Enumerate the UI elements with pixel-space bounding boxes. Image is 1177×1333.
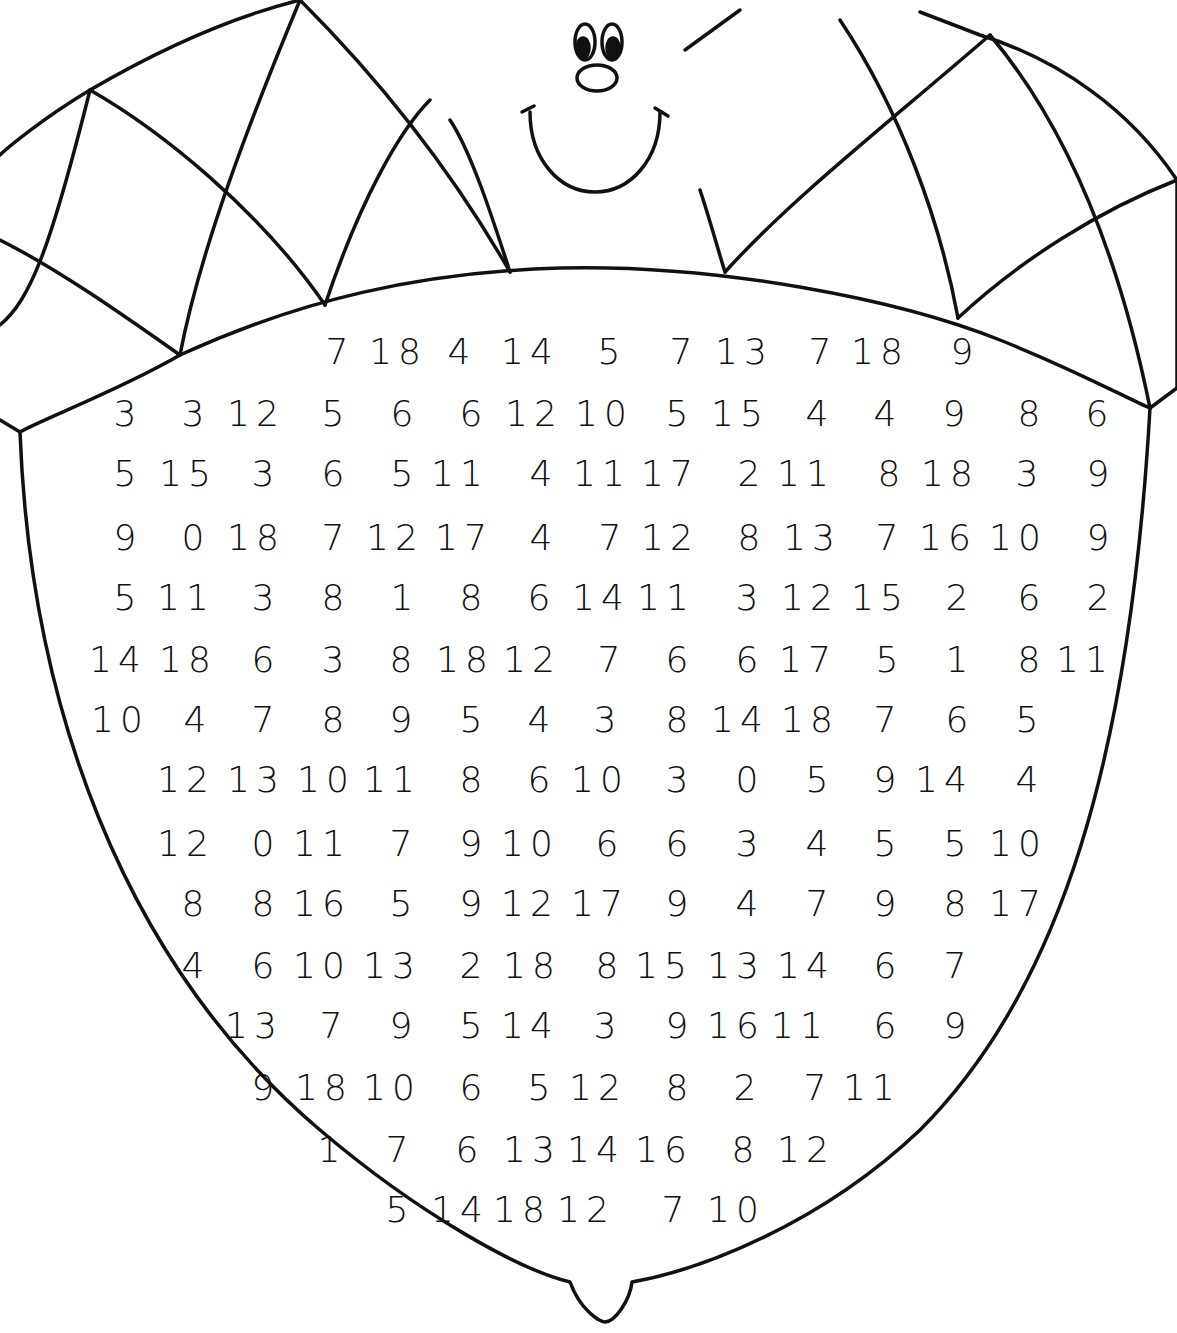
number-cell: 5 — [806, 762, 835, 798]
number-cell: 7 — [874, 702, 903, 738]
number-cell: 5 — [386, 1192, 415, 1228]
number-cell: 9 — [1087, 520, 1116, 556]
number-cell: 4 — [806, 826, 835, 862]
number-cell: 13 — [225, 1008, 283, 1044]
number-cell: 3 — [322, 642, 351, 678]
number-cell: 6 — [460, 396, 489, 432]
number-cell: 6 — [391, 396, 420, 432]
number-cell: 9 — [1087, 456, 1116, 492]
number-cell: 9 — [390, 702, 419, 738]
number-cell: 5 — [666, 396, 695, 432]
number-cell: 15 — [711, 396, 769, 432]
number-cell: 17 — [435, 520, 493, 556]
number-cell: 8 — [944, 886, 973, 922]
number-cell: 14 — [567, 1132, 625, 1168]
number-cell: 1 — [318, 1132, 347, 1168]
number-cell: 18 — [227, 520, 285, 556]
number-cell: 2 — [1087, 580, 1116, 616]
number-cell: 12 — [503, 642, 561, 678]
number-cell: 9 — [943, 396, 972, 432]
number-cell: 9 — [944, 1008, 973, 1044]
number-cell: 6 — [252, 948, 281, 984]
number-cell: 16 — [293, 886, 351, 922]
number-cell: 10 — [501, 826, 559, 862]
number-cell: 18 — [921, 456, 979, 492]
number-cell: 8 — [182, 886, 211, 922]
number-cell: 14 — [915, 762, 973, 798]
number-cell: 3 — [252, 456, 281, 492]
number-cell: 17 — [779, 642, 837, 678]
number-cell: 4 — [806, 396, 835, 432]
number-cell: 15 — [851, 580, 909, 616]
number-cell: 5 — [391, 456, 420, 492]
number-cell: 10 — [707, 1192, 765, 1228]
number-cell: 13 — [783, 520, 841, 556]
number-cell: 7 — [252, 702, 281, 738]
number-cell: 4 — [184, 702, 213, 738]
number-cell: 7 — [598, 642, 627, 678]
number-cell: 7 — [670, 334, 699, 370]
number-cell: 6 — [460, 1070, 489, 1106]
number-cell: 12 — [641, 520, 699, 556]
number-cell: 8 — [878, 456, 907, 492]
number-cell: 11 — [637, 580, 695, 616]
number-cell: 4 — [448, 334, 477, 370]
number-cell: 14 — [777, 948, 835, 984]
number-cell: 8 — [1018, 396, 1047, 432]
number-cell: 13 — [503, 1132, 561, 1168]
number-cell: 0 — [252, 826, 281, 862]
number-cell: 10 — [297, 762, 355, 798]
number-cell: 18 — [503, 948, 561, 984]
number-cell: 7 — [326, 334, 355, 370]
number-cell: 13 — [227, 762, 285, 798]
number-cell: 3 — [666, 762, 695, 798]
number-cell: 6 — [528, 762, 557, 798]
number-cell: 6 — [322, 456, 351, 492]
number-cell: 4 — [182, 948, 211, 984]
number-cell: 8 — [666, 702, 695, 738]
number-cell: 14 — [711, 702, 769, 738]
number-cell: 9 — [874, 762, 903, 798]
number-cell: 12 — [501, 886, 559, 922]
number-cell: 0 — [182, 520, 211, 556]
number-cell: 17 — [989, 886, 1047, 922]
number-cell: 12 — [505, 396, 563, 432]
number-cell: 13 — [363, 948, 421, 984]
number-cell: 16 — [635, 1132, 693, 1168]
number-cell: 5 — [1016, 702, 1045, 738]
number-cell: 4 — [736, 886, 765, 922]
number-cell: 1 — [391, 580, 420, 616]
number-cell: 12 — [157, 762, 215, 798]
number-cell: 12 — [781, 580, 839, 616]
number-cell: 6 — [1086, 396, 1115, 432]
number-cell: 12 — [366, 520, 424, 556]
number-cell: 3 — [736, 580, 765, 616]
number-cell: 5 — [874, 826, 903, 862]
number-cell: 5 — [528, 1070, 557, 1106]
number-cell: 6 — [528, 580, 557, 616]
number-cell: 7 — [809, 334, 838, 370]
number-cell: 5 — [876, 642, 905, 678]
number-cell: 5 — [598, 334, 627, 370]
number-cell: 6 — [874, 1008, 903, 1044]
number-cell: 10 — [571, 762, 629, 798]
number-cell: 6 — [946, 702, 975, 738]
number-cell: 11 — [573, 456, 631, 492]
number-cell: 14 — [501, 334, 559, 370]
number-cell: 13 — [715, 334, 773, 370]
number-cell: 5 — [114, 456, 143, 492]
number-cell: 9 — [666, 886, 695, 922]
number-cell: 5 — [322, 396, 351, 432]
number-cell: 8 — [1018, 642, 1047, 678]
number-cell: 6 — [1018, 580, 1047, 616]
number-cell: 11 — [777, 456, 835, 492]
number-cell: 15 — [159, 456, 217, 492]
number-cell: 17 — [571, 886, 629, 922]
number-cell: 6 — [666, 642, 695, 678]
number-cell: 12 — [557, 1192, 615, 1228]
number-cell: 13 — [707, 948, 765, 984]
number-cell: 8 — [322, 702, 351, 738]
number-cell: 5 — [114, 580, 143, 616]
number-cell: 12 — [157, 826, 215, 862]
number-cell: 11 — [293, 826, 351, 862]
